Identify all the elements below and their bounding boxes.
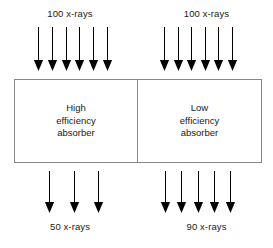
absorber-cell-high-efficiency: High efficiency absorber xyxy=(15,80,138,162)
arrow-down-icon xyxy=(209,171,220,213)
arrow-down-icon xyxy=(227,27,238,71)
transmitted-flux-label-left: 50 x-rays xyxy=(0,221,140,232)
arrow-down-icon xyxy=(44,171,55,213)
incident-flux-label-left: 100 x-rays xyxy=(0,8,140,19)
xray-absorber-diagram: 100 x-rays 100 x-rays High efficiency ab… xyxy=(0,0,273,248)
arrow-down-icon xyxy=(74,27,85,71)
arrow-down-icon xyxy=(33,27,44,71)
transmitted-arrows-right xyxy=(160,171,236,213)
absorber-label-low-efficiency: Low efficiency absorber xyxy=(180,102,219,140)
incident-flux-label-right: 100 x-rays xyxy=(140,8,273,19)
incident-arrows-left xyxy=(33,27,113,71)
arrow-down-icon xyxy=(186,27,197,71)
absorber-assembly: High efficiency absorber Low efficiency … xyxy=(14,79,262,163)
arrow-down-icon xyxy=(193,171,204,213)
transmitted-flux-label-right: 90 x-rays xyxy=(140,221,273,232)
incident-arrows-right xyxy=(159,27,238,71)
arrow-down-icon xyxy=(88,27,99,71)
arrow-down-icon xyxy=(160,171,171,213)
arrow-down-icon xyxy=(213,27,224,71)
arrow-down-icon xyxy=(102,27,113,71)
absorber-label-high-efficiency: High efficiency absorber xyxy=(56,102,95,140)
arrow-down-icon xyxy=(200,27,211,71)
arrow-down-icon xyxy=(47,27,58,71)
arrow-down-icon xyxy=(93,171,104,213)
arrow-down-icon xyxy=(159,27,170,71)
arrow-down-icon xyxy=(173,27,184,71)
absorber-cell-low-efficiency: Low efficiency absorber xyxy=(138,80,261,162)
arrow-down-icon xyxy=(225,171,236,213)
arrow-down-icon xyxy=(176,171,187,213)
arrow-down-icon xyxy=(61,27,72,71)
transmitted-arrows-left xyxy=(44,171,104,213)
arrow-down-icon xyxy=(69,171,80,213)
